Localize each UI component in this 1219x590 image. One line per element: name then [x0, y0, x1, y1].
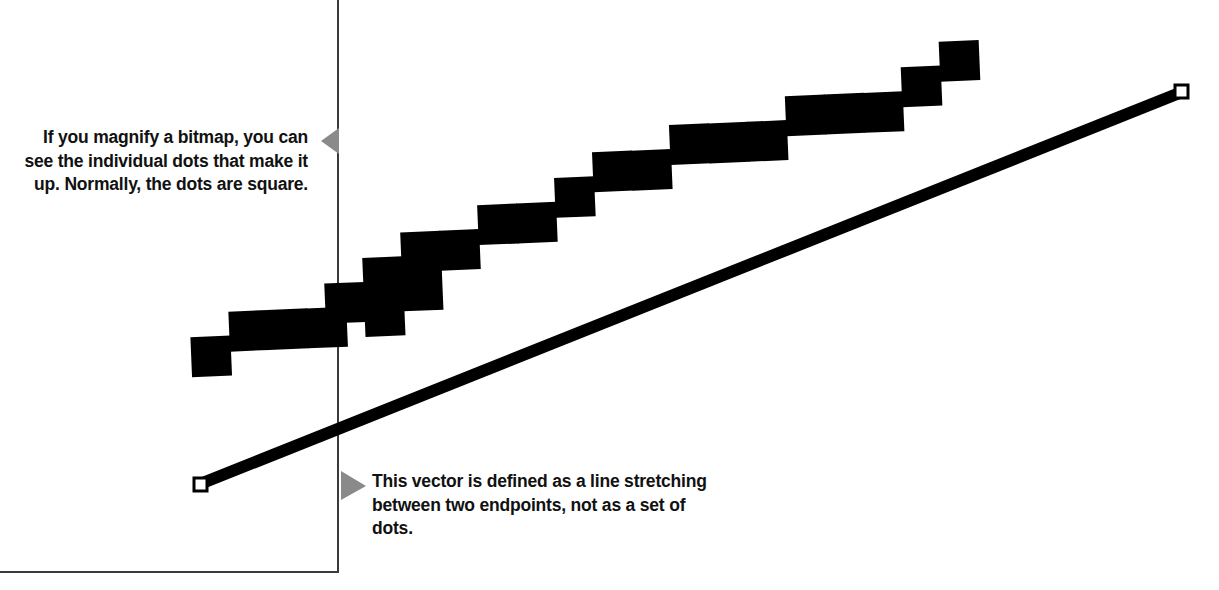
bitmap-dot [785, 94, 827, 136]
bitmap-dot [747, 120, 789, 162]
bitmap-dot [190, 336, 232, 378]
vector-pointer-icon [341, 471, 366, 500]
bitmap-dot [863, 91, 905, 133]
bitmap-dot [708, 122, 750, 164]
bitmap-dot [669, 123, 711, 165]
bitmap-dot [592, 151, 634, 193]
figure-canvas: If you magnify a bitmap, you can see the… [0, 0, 1219, 590]
bitmap-dot [477, 203, 519, 245]
bitmap-dot [439, 229, 481, 271]
bitmap-dot [402, 270, 444, 312]
bitmap-dot [400, 231, 442, 273]
bitmap-dot [324, 282, 366, 324]
vector-endpoint-handle-start[interactable] [194, 478, 207, 491]
vector-endpoint-handle-end[interactable] [1175, 85, 1188, 98]
bitmap-dot [631, 149, 673, 191]
bitmap-dot [939, 40, 981, 82]
bitmap-dot [824, 93, 866, 135]
bitmap-dot [364, 295, 406, 337]
vector-caption: This vector is defined as a line stretch… [372, 470, 712, 541]
bitmap-dot [554, 176, 596, 218]
bitmap-dot [228, 310, 270, 352]
frame-rules [0, 0, 338, 573]
bitmap-pointer-icon [321, 128, 339, 154]
bitmap-dot [901, 66, 943, 108]
bitmap-dot [267, 308, 309, 350]
bitmap-dot [362, 256, 404, 298]
bitmap-dot [516, 202, 558, 244]
bitmap-caption: If you magnify a bitmap, you can see the… [18, 126, 308, 197]
